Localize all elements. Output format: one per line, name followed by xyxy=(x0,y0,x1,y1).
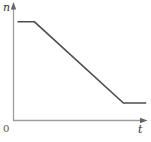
y-axis-arrow-icon xyxy=(11,2,16,10)
n-vs-t-curve xyxy=(18,22,147,103)
line-graph-figure: n t 0 xyxy=(0,0,151,142)
y-axis-label: n xyxy=(3,1,10,14)
origin-label: 0 xyxy=(3,123,9,134)
graph-canvas: n t 0 xyxy=(0,0,151,142)
x-axis-label: t xyxy=(138,123,143,136)
